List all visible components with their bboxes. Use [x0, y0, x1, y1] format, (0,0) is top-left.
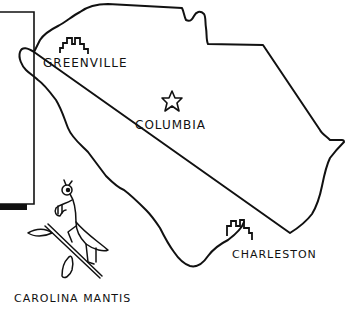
mantis-caption: CAROLINA MANTIS	[14, 293, 131, 304]
inset-box	[0, 12, 34, 210]
city-label-columbia: COLUMBIA	[135, 119, 206, 131]
greenville-skyline-icon	[60, 38, 88, 54]
map-canvas	[0, 0, 345, 311]
city-label-greenville: GREENVILLE	[43, 57, 127, 69]
state-outline	[19, 4, 344, 266]
carolina-mantis-illustration	[28, 180, 108, 278]
columbia-star-icon	[162, 91, 182, 111]
city-label-charleston: CHARLESTON	[232, 249, 317, 260]
